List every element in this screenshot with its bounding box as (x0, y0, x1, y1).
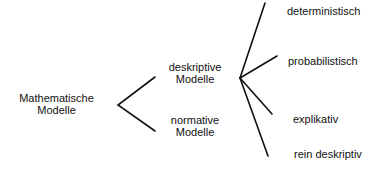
edge-to-deterministisch (240, 3, 265, 78)
node-normative-modelle-line1: normative (155, 114, 235, 126)
node-deskriptive-modelle-line1: deskriptive (155, 61, 235, 73)
node-mathematische-modelle: Mathematische Modelle (0, 92, 113, 116)
diagram-canvas: Mathematische Modelle deskriptive Modell… (0, 0, 388, 169)
node-normative-modelle-line2: Modelle (155, 126, 235, 138)
node-mathematische-modelle-line2: Modelle (0, 104, 113, 116)
edge-to-rein-deskriptiv (240, 78, 268, 156)
edge-root-fork (118, 77, 155, 131)
node-probabilistisch: probabilistisch (288, 55, 358, 67)
edge-to-explikativ (240, 78, 272, 114)
node-explikativ: explikativ (293, 113, 338, 125)
node-deterministisch: deterministisch (287, 5, 360, 17)
node-deskriptive-modelle: deskriptive Modelle (155, 61, 235, 85)
node-deskriptive-modelle-line2: Modelle (155, 73, 235, 85)
node-mathematische-modelle-line1: Mathematische (0, 92, 113, 104)
node-rein-deskriptiv: rein deskriptiv (294, 148, 362, 160)
node-normative-modelle: normative Modelle (155, 114, 235, 138)
